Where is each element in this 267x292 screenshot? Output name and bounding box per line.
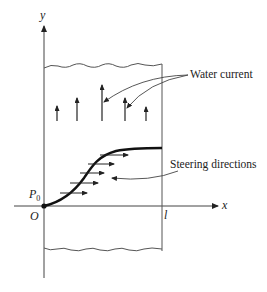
far-bank-label: l — [164, 209, 167, 221]
water-current-label: Water current — [190, 69, 253, 81]
top-river-bank-wavy — [44, 64, 162, 69]
start-point-dot — [41, 203, 46, 208]
steering-directions-label: Steering directions — [170, 159, 257, 171]
water-current-leaders — [104, 75, 188, 108]
river-crossing-diagram: y x O P0 l Water current Steering direct… — [0, 0, 267, 292]
water-current-arrows — [57, 85, 146, 121]
y-axis-label: y — [40, 9, 45, 21]
start-point-subscript: 0 — [36, 194, 40, 203]
start-point-label: P0 — [29, 188, 40, 203]
x-axis-label: x — [222, 199, 227, 211]
steering-leader — [112, 171, 178, 179]
diagram-canvas — [0, 0, 267, 292]
steering-arrows — [60, 155, 128, 193]
bottom-river-bank-wavy — [44, 248, 162, 251]
origin-label: O — [30, 210, 39, 222]
